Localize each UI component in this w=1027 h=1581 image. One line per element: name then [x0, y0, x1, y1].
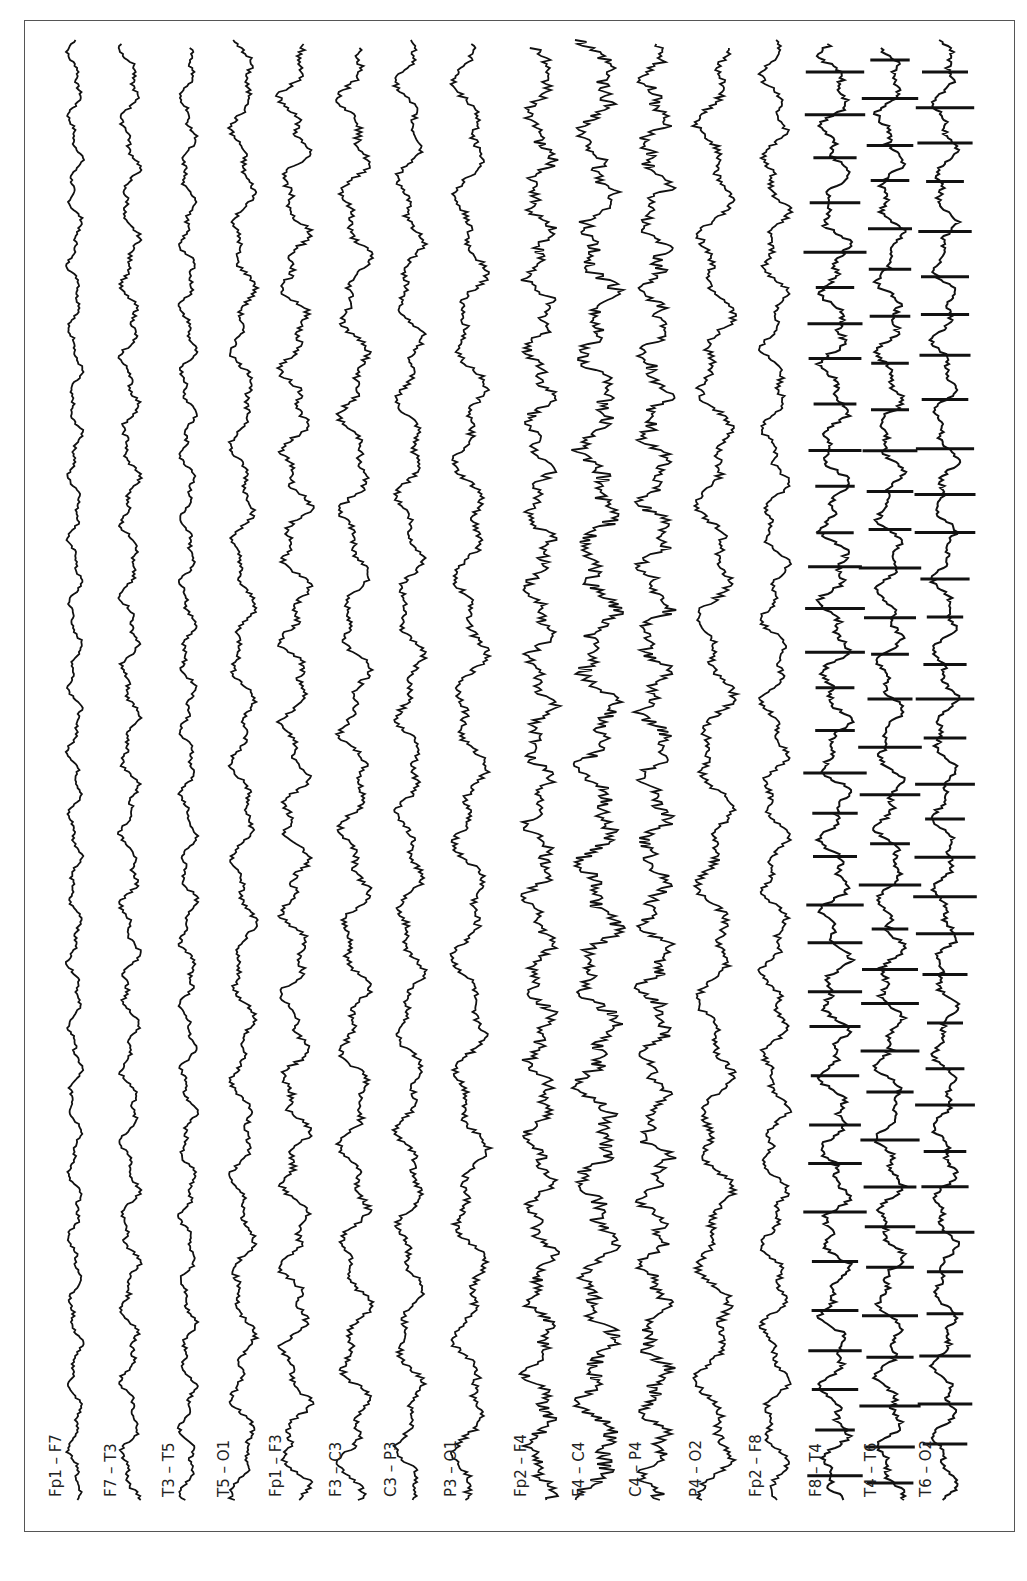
channel-label: T4 – T6	[862, 1443, 880, 1497]
channel-label: P4 – O2	[687, 1440, 705, 1497]
trace-f4c4	[571, 40, 624, 1500]
trace-p4o2	[693, 48, 738, 1500]
channel-label: Fp2 – F4	[512, 1434, 530, 1497]
trace-t3t5	[178, 48, 199, 1500]
trace-c4p4	[634, 44, 676, 1500]
channel-label: C3 – P3	[382, 1441, 400, 1497]
channel-label: F7 – T3	[102, 1443, 120, 1497]
trace-p3o1	[451, 44, 492, 1500]
trace-t6o2	[930, 40, 961, 1500]
trace-fp2f4	[520, 48, 561, 1500]
channel-label: T6 – O2	[917, 1440, 935, 1497]
eeg-traces	[0, 0, 1027, 1581]
trace-f7t3	[118, 44, 142, 1500]
channel-label: P3 – O1	[442, 1440, 460, 1497]
channel-label: F4 – C4	[570, 1442, 588, 1497]
channel-label: F3 – C3	[327, 1442, 345, 1497]
channel-label: T3 – T5	[160, 1443, 178, 1497]
trace-t4t6	[873, 48, 906, 1500]
trace-fp2f8	[758, 40, 792, 1500]
channel-label: C4 – P4	[627, 1441, 645, 1497]
trace-t5o1	[228, 40, 258, 1500]
channel-label: Fp1 – F7	[47, 1434, 65, 1497]
trace-fp1f3	[276, 44, 314, 1500]
trace-c3p3	[393, 40, 427, 1500]
channel-label: F8 – T4	[807, 1443, 825, 1497]
channel-label: Fp1 – F3	[267, 1434, 285, 1497]
channel-label: Fp2 – F8	[747, 1434, 765, 1497]
channel-label: T5 – O1	[215, 1440, 233, 1497]
trace-f3c3	[336, 48, 373, 1500]
trace-fp1f7	[66, 40, 84, 1500]
